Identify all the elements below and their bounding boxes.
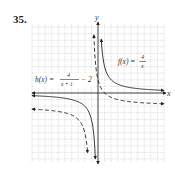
h-label: h(x) = 4 x + 1 − 2	[34, 72, 94, 87]
h-label-numerator: 4	[67, 72, 70, 78]
h-label-name: h(x) =	[35, 75, 54, 84]
h-label-tail: − 2	[81, 75, 92, 84]
h-left-branch	[32, 109, 88, 153]
y-axis-label: y	[94, 13, 99, 22]
f-label: f(x) = 4 x	[118, 54, 146, 69]
f-label-denominator: x	[140, 63, 144, 69]
x-axis-label: x	[166, 89, 171, 98]
f-label-name: f(x) =	[118, 57, 135, 66]
axes	[32, 22, 166, 164]
h-label-denominator: x + 1	[60, 81, 73, 87]
f-left-branch	[32, 96, 95, 159]
rational-function-graph: x y f(x) = 4 x h(x) = 4 x + 1 − 2	[0, 0, 175, 171]
f-label-numerator: 4	[141, 54, 144, 60]
